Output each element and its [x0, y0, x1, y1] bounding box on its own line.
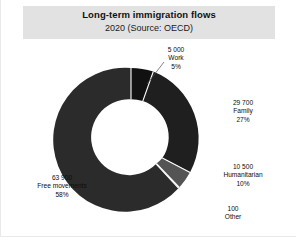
label-free-movements-value: 63 900 [15, 174, 109, 182]
label-other: 100 Other [213, 205, 253, 222]
label-work-name: Work [153, 54, 199, 62]
label-work-percent: 5% [153, 63, 199, 71]
label-humanitarian-percent: 10% [213, 180, 273, 188]
label-free-movements: 63 900 Free movements 58% [15, 174, 109, 199]
label-family-value: 29 700 [217, 99, 269, 107]
label-free-movements-percent: 58% [15, 191, 109, 199]
label-family-percent: 27% [217, 116, 269, 124]
label-humanitarian-name: Humanitarian [213, 171, 273, 179]
label-work: 5 000 Work 5% [153, 46, 199, 71]
label-other-value: 100 [213, 205, 253, 213]
label-humanitarian-value: 10 500 [213, 163, 273, 171]
label-free-movements-name: Free movements [15, 182, 109, 190]
slice-family[interactable] [143, 72, 199, 173]
label-humanitarian: 10 500 Humanitarian 10% [213, 163, 273, 188]
label-work-value: 5 000 [153, 46, 199, 54]
chart-page: Long-term immigration flows 2020 (Source… [0, 0, 296, 237]
label-family-name: Family [217, 107, 269, 115]
label-other-name: Other [213, 213, 253, 221]
label-family: 29 700 Family 27% [217, 99, 269, 124]
